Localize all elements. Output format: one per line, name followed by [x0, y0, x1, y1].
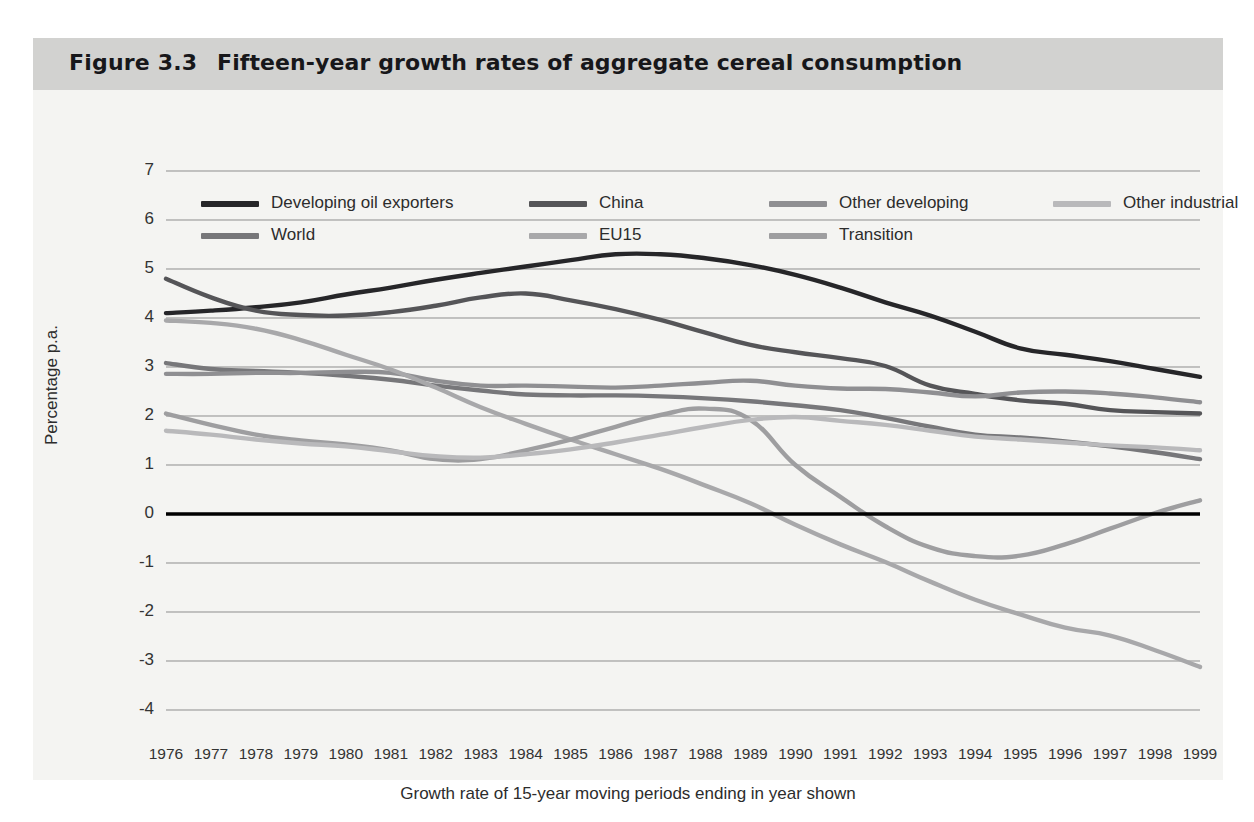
- y-axis-tick-label: 0: [114, 503, 154, 523]
- series-line: [166, 417, 1200, 458]
- y-axis-tick-label: 1: [114, 454, 154, 474]
- x-axis-tick-label: 1981: [368, 745, 414, 763]
- legend-label: Developing oil exporters: [271, 193, 453, 213]
- x-axis-tick-label: 1986: [593, 745, 639, 763]
- x-axis-tick-label: 1991: [817, 745, 863, 763]
- legend-swatch-icon: [529, 201, 587, 207]
- x-axis-caption: Growth rate of 15-year moving periods en…: [33, 784, 1223, 804]
- x-axis-tick-label: 1997: [1087, 745, 1133, 763]
- x-axis-tick-label: 1982: [413, 745, 459, 763]
- y-axis-tick-label: -3: [114, 650, 154, 670]
- legend-swatch-icon: [1053, 201, 1111, 207]
- legend-label: Other developing: [839, 193, 968, 213]
- x-axis-tick-label: 1976: [143, 745, 189, 763]
- x-axis-tick-label: 1999: [1177, 745, 1223, 763]
- y-axis-tick-label: 4: [114, 307, 154, 327]
- x-axis-tick-label: 1996: [1042, 745, 1088, 763]
- y-axis-tick-label: -2: [114, 601, 154, 621]
- x-axis-tick-label: 1977: [188, 745, 234, 763]
- y-axis-tick-label: 5: [114, 258, 154, 278]
- y-axis-tick-label: -1: [114, 552, 154, 572]
- legend-label: Transition: [839, 225, 913, 245]
- x-axis-tick-label: 1984: [503, 745, 549, 763]
- x-axis-tick-label: 1992: [862, 745, 908, 763]
- y-axis-tick-label: 2: [114, 405, 154, 425]
- legend-label: EU15: [599, 225, 642, 245]
- x-axis-tick-label: 1994: [952, 745, 998, 763]
- x-axis-tick-label: 1980: [323, 745, 369, 763]
- x-axis-tick-label: 1998: [1132, 745, 1178, 763]
- legend-label: World: [271, 225, 315, 245]
- legend-label: China: [599, 193, 643, 213]
- y-axis-tick-label: 3: [114, 356, 154, 376]
- legend-swatch-icon: [769, 233, 827, 239]
- figure-title-bar: Figure 3.3 Fifteen-year growth rates of …: [33, 38, 1223, 90]
- y-axis-tick-label: -4: [114, 699, 154, 719]
- figure-number: Figure 3.3: [69, 50, 197, 75]
- chart-legend: Developing oil exportersWorldChinaEU15Ot…: [201, 193, 1211, 253]
- x-axis-tick-label: 1993: [907, 745, 953, 763]
- x-axis-tick-label: 1988: [682, 745, 728, 763]
- plot-body: Percentage p.a. 76543210-1-2-3-4 1976197…: [33, 90, 1223, 780]
- y-axis-tick-label: 6: [114, 209, 154, 229]
- y-axis-tick-label: 7: [114, 160, 154, 180]
- legend-swatch-icon: [769, 201, 827, 207]
- legend-swatch-icon: [529, 233, 587, 239]
- x-axis-tick-label: 1989: [727, 745, 773, 763]
- legend-swatch-icon: [201, 201, 259, 207]
- figure-container: Figure 3.3 Fifteen-year growth rates of …: [33, 38, 1223, 780]
- x-axis-tick-label: 1978: [233, 745, 279, 763]
- x-axis-tick-label: 1995: [997, 745, 1043, 763]
- x-axis-tick-label: 1987: [638, 745, 684, 763]
- figure-title: Fifteen-year growth rates of aggregate c…: [217, 50, 962, 75]
- legend-swatch-icon: [201, 233, 259, 239]
- x-axis-tick-label: 1985: [548, 745, 594, 763]
- series-lines: [166, 253, 1200, 666]
- x-axis-tick-label: 1979: [278, 745, 324, 763]
- x-axis-tick-label: 1983: [458, 745, 504, 763]
- legend-label: Other industrial: [1123, 193, 1238, 213]
- x-axis-tick-label: 1990: [772, 745, 818, 763]
